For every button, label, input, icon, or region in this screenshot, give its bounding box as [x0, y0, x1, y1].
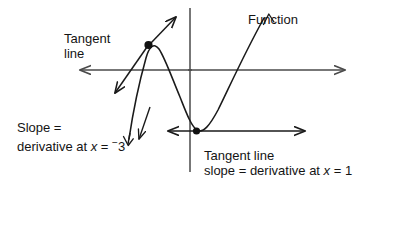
label-tangent-line-right-line2: slope = derivative at x = 1 [204, 163, 352, 178]
label-tangent-line-right-line1: Tangent line [204, 148, 352, 163]
figure-canvas: Tangent line Function Slope = derivative… [0, 0, 396, 225]
tangent-point-max [144, 41, 152, 49]
label-function: Function [248, 12, 298, 27]
label-slope-derivative-left: Slope = derivative at x = −3 [17, 120, 125, 154]
tangent-line-slanted [115, 17, 176, 93]
label-tangent-right-equals: = [330, 163, 345, 178]
label-slope-left-equals: = [97, 139, 112, 154]
math-diagram [0, 0, 396, 225]
label-tangent-line-right: Tangent line slope = derivative at x = 1 [204, 148, 352, 178]
label-tangent-line-left: Tangent line [64, 31, 110, 61]
label-slope-left-value: 3 [118, 139, 125, 154]
label-tangent-right-value: 1 [345, 163, 352, 178]
label-slope-left-line1: Slope = [17, 120, 125, 135]
label-tangent-line-left-line2: line [64, 46, 110, 61]
function-curve [124, 14, 275, 146]
tangent-point-min [193, 127, 200, 134]
label-tangent-right-prefix: slope = derivative at [204, 163, 324, 178]
label-slope-left-prefix: derivative at [17, 139, 91, 154]
label-tangent-line-left-line1: Tangent [64, 31, 110, 46]
label-slope-left-line2: derivative at x = −3 [17, 135, 125, 154]
slope-label-pointer-arrow [139, 107, 150, 139]
